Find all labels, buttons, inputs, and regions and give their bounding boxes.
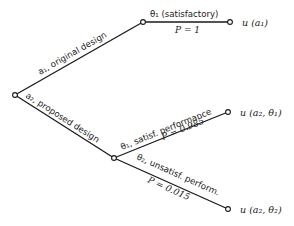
decision-tree: a₁, original design a₂, proposed design … (0, 0, 294, 226)
a1-node (141, 20, 146, 25)
branch-label-a2: a₂, proposed design (24, 90, 101, 144)
branch-label-a1-theta1: θ₁ (satisfactory) (150, 9, 218, 19)
branch-label-a2-theta1: θ₁, satisf. performance (119, 106, 213, 152)
prob-label-a1-theta1: P = 1 (174, 25, 200, 35)
payoff-a1: u (a₁) (242, 17, 268, 28)
a1-outcome-node (228, 20, 233, 25)
edge-a1 (15, 22, 143, 95)
edge-a2 (15, 95, 114, 158)
a2-theta1-node (226, 110, 231, 115)
branch-label-a1: a₁, original design (36, 30, 108, 77)
payoff-a2-theta2: u (a₂, θ₂) (240, 204, 282, 215)
a2-chance-node (112, 156, 117, 161)
payoff-a2-theta1: u (a₂, θ₁) (240, 107, 282, 118)
root-node (13, 93, 18, 98)
a2-theta2-node (226, 207, 231, 212)
